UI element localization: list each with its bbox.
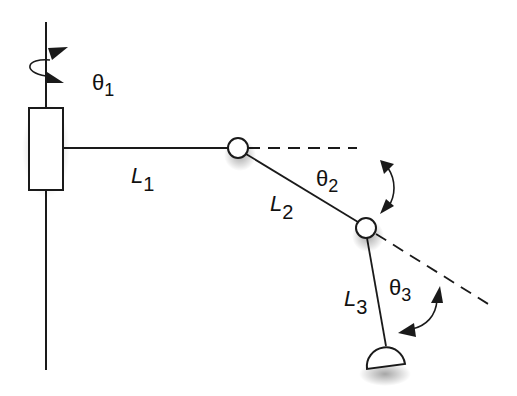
L1-label: L1	[131, 163, 154, 195]
joint-2	[228, 138, 248, 158]
link-L3	[367, 238, 386, 346]
theta2-label: θ2	[316, 166, 338, 196]
robot-arm-diagram: θ1 L1 θ2 L2 θ3	[0, 0, 517, 396]
rotation-arrow-theta1-icon	[30, 47, 68, 83]
L2-label: L2	[270, 191, 293, 223]
end-effector	[367, 347, 405, 369]
base-joint-box	[29, 108, 63, 190]
L3-label: L3	[344, 286, 367, 318]
rotation-arrow-theta2-icon	[380, 160, 394, 214]
theta1-label: θ1	[92, 70, 114, 100]
joint-3	[356, 218, 376, 238]
theta3-label: θ3	[389, 275, 411, 305]
link-L2	[246, 154, 358, 222]
